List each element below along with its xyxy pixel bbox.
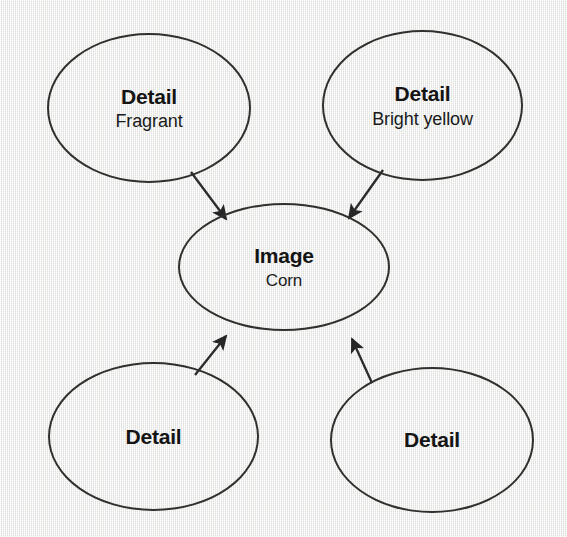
node-label-stack: Detail Bright yellow — [372, 82, 473, 129]
node-subtitle: Fragrant — [115, 111, 182, 131]
node-label-stack: Detail — [126, 425, 182, 449]
edge-bright-to-image — [349, 170, 383, 218]
node-title: Detail — [121, 85, 177, 109]
node-title: Image — [254, 244, 314, 268]
edge-fragrant-to-image — [191, 172, 226, 219]
node-label-stack: Detail — [404, 428, 460, 452]
node-detail-bottom-left[interactable]: Detail — [48, 362, 259, 511]
node-label-stack: Image Corn — [254, 244, 314, 290]
node-label-stack: Detail Fragrant — [115, 85, 182, 132]
edge-bottomright-to-image — [352, 339, 372, 383]
node-subtitle: Bright yellow — [372, 109, 473, 129]
node-title: Detail — [395, 82, 451, 106]
node-title: Detail — [126, 425, 182, 449]
concept-map-diagram: Detail Fragrant Detail Bright yellow Ima… — [0, 0, 567, 537]
node-detail-fragrant[interactable]: Detail Fragrant — [47, 33, 251, 183]
node-image-corn[interactable]: Image Corn — [178, 203, 390, 331]
node-subtitle: Corn — [266, 271, 302, 290]
node-detail-bottom-right[interactable]: Detail — [330, 367, 534, 513]
node-detail-bright-yellow[interactable]: Detail Bright yellow — [322, 30, 523, 181]
node-title: Detail — [404, 428, 460, 452]
